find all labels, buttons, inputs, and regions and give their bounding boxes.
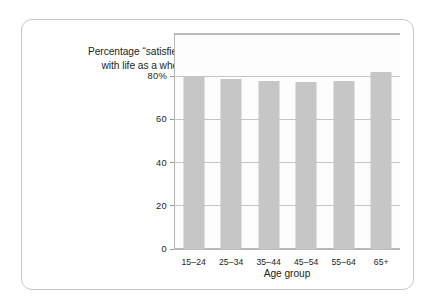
bar-group: 65+ bbox=[363, 33, 400, 249]
y-axis-tick-label: 0 bbox=[162, 244, 167, 254]
chart-title-line-2: with life as a whole bbox=[34, 59, 186, 73]
bar-group: 25–34 bbox=[212, 33, 249, 249]
bar-series: 15–2425–3435–4445–5455–6465+ bbox=[175, 33, 400, 249]
x-axis-tick-label: 65+ bbox=[374, 257, 389, 267]
bar[interactable] bbox=[371, 72, 392, 249]
bar-group: 35–44 bbox=[250, 33, 287, 249]
y-axis-tick-label: 40 bbox=[156, 158, 167, 168]
bar[interactable] bbox=[183, 76, 204, 249]
y-axis-tick bbox=[170, 205, 174, 206]
x-axis-title: Age group bbox=[174, 268, 400, 279]
x-axis-tick-label: 15–24 bbox=[181, 257, 206, 267]
bar-group: 15–24 bbox=[175, 33, 212, 249]
bar-group: 55–64 bbox=[325, 33, 362, 249]
chart-title-line-1: Percentage “satisfied” bbox=[34, 45, 186, 59]
plot-area: 020406080% 15–2425–3435–4445–5455–6465+ bbox=[174, 33, 400, 249]
chart-title: Percentage “satisfied” with life as a wh… bbox=[34, 45, 186, 72]
x-axis-tick-label: 45–54 bbox=[294, 257, 319, 267]
x-axis-tick-label: 55–64 bbox=[331, 257, 356, 267]
bar[interactable] bbox=[333, 81, 354, 249]
bar[interactable] bbox=[296, 82, 317, 249]
y-axis-tick-label: 80% bbox=[147, 71, 167, 81]
bar[interactable] bbox=[258, 81, 279, 249]
bar[interactable] bbox=[221, 79, 242, 249]
chart-panel: Percentage “satisfied” with life as a wh… bbox=[21, 19, 414, 290]
y-axis-tick bbox=[170, 76, 174, 77]
y-axis-tick bbox=[170, 119, 174, 120]
y-axis-tick-label: 60 bbox=[156, 114, 167, 124]
y-axis-tick bbox=[170, 162, 174, 163]
bar-group: 45–54 bbox=[288, 33, 325, 249]
x-axis-tick-label: 25–34 bbox=[219, 257, 244, 267]
y-axis-tick-label: 20 bbox=[156, 201, 167, 211]
x-axis-tick-label: 35–44 bbox=[256, 257, 281, 267]
